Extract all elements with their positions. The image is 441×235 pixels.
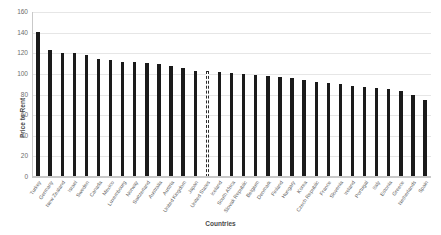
bar-slot (92, 12, 104, 177)
bar-slot (310, 12, 322, 177)
bar-series (32, 12, 431, 177)
bar-slot (359, 12, 371, 177)
x-tick-slot: Estonia (383, 179, 395, 221)
bar (36, 32, 39, 177)
x-tick-slot: Czech Republic (310, 179, 322, 221)
x-axis-tick-label: Spain (418, 180, 430, 194)
bar-slot (298, 12, 310, 177)
bar-slot (201, 12, 213, 177)
bar-slot (226, 12, 238, 177)
x-tick-slot: Finland (274, 179, 286, 221)
price-to-rent-bar-chart: Price to Rent 020406080100120140160 Turk… (0, 0, 441, 235)
bar-slot (274, 12, 286, 177)
bar-slot (189, 12, 201, 177)
bar-slot (68, 12, 80, 177)
bar (121, 62, 124, 178)
x-tick-slot: Denmark (262, 179, 274, 221)
x-tick-slot: United Kingdom (177, 179, 189, 221)
bar-slot (129, 12, 141, 177)
bar (290, 78, 293, 177)
bar (109, 60, 112, 177)
bar (266, 76, 269, 177)
x-tick-slot: Canada (92, 179, 104, 221)
bar (339, 84, 342, 177)
x-axis-tick-labels: TurkeyGermanyNew ZealandIsraelSwedenCana… (32, 179, 431, 221)
x-tick-slot: Netherlands (407, 179, 419, 221)
bar-slot (177, 12, 189, 177)
x-tick-slot: Australia (153, 179, 165, 221)
x-tick-slot: Israel (68, 179, 80, 221)
y-axis-tick-label: 40 (21, 133, 28, 140)
bar-slot (250, 12, 262, 177)
bar (399, 91, 402, 177)
x-tick-slot: Slovak Republic (238, 179, 250, 221)
bar-slot (322, 12, 334, 177)
x-axis-title: Countries (0, 220, 441, 227)
bar (423, 100, 426, 177)
bar-slot (165, 12, 177, 177)
x-tick-slot: Luxembourg (117, 179, 129, 221)
bar (181, 68, 184, 177)
bar-slot (419, 12, 431, 177)
x-tick-slot: Spain (419, 179, 431, 221)
bar-slot (32, 12, 44, 177)
bar-slot (286, 12, 298, 177)
bar-slot (153, 12, 165, 177)
bar-slot (117, 12, 129, 177)
y-axis-tick-label: 140 (17, 29, 28, 36)
bar-highlighted (206, 71, 209, 177)
bar (194, 71, 197, 177)
bar (145, 63, 148, 177)
bar (218, 72, 221, 177)
bar (302, 80, 305, 177)
bar-slot (334, 12, 346, 177)
bar (157, 64, 160, 177)
bar (97, 59, 100, 177)
bar-slot (371, 12, 383, 177)
bar-slot (383, 12, 395, 177)
y-axis-tick-label: 120 (17, 50, 28, 57)
bar (73, 53, 76, 177)
bar-slot (80, 12, 92, 177)
x-tick-slot: Switzerland (141, 179, 153, 221)
bar (315, 82, 318, 177)
bar-slot (395, 12, 407, 177)
bar (351, 86, 354, 177)
x-tick-slot: Ireland (346, 179, 358, 221)
y-axis-tick-label: 20 (21, 153, 28, 160)
bar (230, 73, 233, 177)
x-tick-slot: United States (201, 179, 213, 221)
x-tick-slot: Hungary (286, 179, 298, 221)
bar (363, 87, 366, 177)
bar (375, 88, 378, 177)
bar (133, 62, 136, 178)
bar (278, 77, 281, 177)
x-tick-slot: Portugal (359, 179, 371, 221)
bar-slot (262, 12, 274, 177)
x-axis-tick-label: Italy (371, 180, 381, 191)
x-tick-slot: Italy (371, 179, 383, 221)
bar (48, 50, 51, 177)
y-axis-tick-label: 60 (21, 112, 28, 119)
bar-slot (238, 12, 250, 177)
x-tick-slot: Sweden (80, 179, 92, 221)
bar (242, 74, 245, 177)
y-axis-tick-label: 80 (21, 91, 28, 98)
bar (411, 95, 414, 178)
bar (61, 53, 64, 177)
bar-slot (346, 12, 358, 177)
bar-slot (407, 12, 419, 177)
bar (254, 75, 257, 177)
bar (169, 66, 172, 177)
bar-slot (105, 12, 117, 177)
plot-area: 020406080100120140160 (32, 12, 431, 177)
gridline: 0 (32, 177, 431, 178)
y-axis-tick-label: 100 (17, 71, 28, 78)
bar-slot (44, 12, 56, 177)
x-tick-slot: Slovenia (334, 179, 346, 221)
bar-slot (141, 12, 153, 177)
bar (387, 89, 390, 177)
y-axis-tick-label: 0 (24, 174, 28, 181)
bar-slot (56, 12, 68, 177)
x-tick-slot: France (322, 179, 334, 221)
